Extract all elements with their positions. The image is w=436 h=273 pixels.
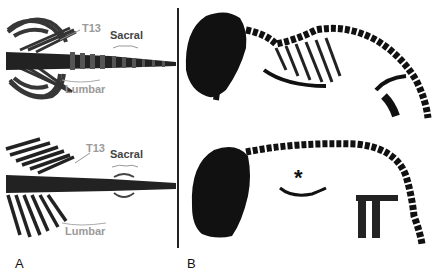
panel-label-b: B [187,256,196,271]
asterisk-annotation: * [294,165,303,191]
panel-b-top-skeleton-image [176,0,436,136]
lumbar-label-bottom: Lumbar [65,225,105,237]
panel-a-top-spine-image [0,0,176,125]
panel-label-a: A [15,256,24,271]
sacral-label-bottom: Sacral [110,148,143,160]
t13-label-bottom: T13 [86,142,105,154]
sacral-label-top: Sacral [110,29,143,41]
lumbar-label-top: Lumbar [65,83,105,95]
t13-label-top: T13 [82,22,101,34]
panel-b-bottom-skeleton-image [176,136,436,273]
